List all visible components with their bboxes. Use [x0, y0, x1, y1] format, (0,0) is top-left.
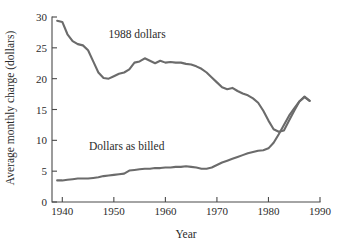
y-tick-label: 10 — [36, 134, 48, 146]
x-tick-label: 1980 — [257, 205, 280, 217]
x-tick-label: 1960 — [154, 205, 177, 217]
x-axis-tick-labels: 194019501960197019801990 — [51, 205, 331, 217]
y-tick-label: 30 — [36, 11, 48, 23]
series-annotations: 1988 dollarsDollars as billed — [89, 28, 166, 152]
chart-canvas: 194019501960197019801990 051015202530 19… — [0, 0, 339, 244]
y-tick-label: 5 — [42, 165, 48, 177]
y-axis-ticks — [52, 17, 57, 202]
series-annotation-label: 1988 dollars — [108, 28, 166, 40]
x-axis-ticks — [62, 197, 320, 202]
data-series-line — [57, 97, 310, 180]
y-axis-tick-labels: 051015202530 — [36, 11, 48, 208]
y-tick-label: 25 — [36, 42, 48, 54]
x-tick-label: 1940 — [51, 205, 74, 217]
y-tick-label: 20 — [36, 73, 48, 85]
y-tick-label: 15 — [36, 104, 48, 116]
data-series-line — [57, 21, 310, 132]
y-axis-title: Average monthly charge (dollars) — [4, 31, 17, 186]
series-annotation-label: Dollars as billed — [89, 140, 165, 152]
x-axis-title: Year — [175, 228, 196, 240]
axes-group — [52, 17, 320, 202]
chart-container: 194019501960197019801990 051015202530 19… — [0, 0, 339, 244]
data-series-group — [57, 21, 310, 181]
x-tick-label: 1970 — [206, 205, 229, 217]
y-tick-label: 0 — [42, 196, 48, 208]
x-tick-label: 1990 — [309, 205, 332, 217]
x-tick-label: 1950 — [103, 205, 126, 217]
axis-lines — [52, 17, 320, 202]
